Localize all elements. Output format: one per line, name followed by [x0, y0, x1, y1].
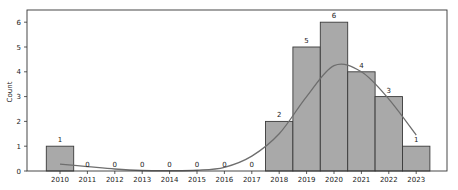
bar-value-label: 4	[359, 62, 364, 70]
bar-value-label: 0	[85, 161, 89, 169]
x-tick-label: 2018	[270, 176, 288, 184]
bar-value-label: 3	[387, 87, 391, 95]
y-axis-title: Count	[6, 81, 14, 102]
y-tick-label: 2	[17, 118, 21, 126]
y-tick-label: 3	[17, 93, 21, 101]
y-tick-label: 1	[17, 143, 21, 151]
bar-value-label: 0	[222, 161, 226, 169]
bar-value-label: 5	[304, 37, 308, 45]
bar	[348, 72, 375, 171]
y-axis-ticks: 0123456	[17, 19, 27, 176]
x-tick-label: 2010	[51, 176, 69, 184]
bar-value-label: 0	[250, 161, 254, 169]
x-tick-label: 2013	[133, 176, 151, 184]
x-tick-label: 2019	[298, 176, 316, 184]
bar	[375, 97, 402, 171]
x-tick-label: 2011	[78, 176, 96, 184]
bar-value-label: 0	[113, 161, 117, 169]
x-tick-label: 2017	[243, 176, 261, 184]
bars	[46, 22, 430, 171]
y-tick-label: 0	[17, 168, 21, 176]
x-tick-label: 2023	[407, 176, 425, 184]
y-tick-label: 5	[17, 44, 21, 52]
bar-value-label: 0	[167, 161, 171, 169]
y-tick-label: 4	[17, 68, 22, 76]
x-tick-label: 2015	[188, 176, 206, 184]
bar-value-label: 0	[140, 161, 144, 169]
x-tick-label: 2021	[352, 176, 370, 184]
bar-value-label: 0	[195, 161, 199, 169]
x-tick-label: 2016	[215, 176, 233, 184]
x-axis-ticks: 2010201120122013201420152016201720182019…	[51, 171, 425, 184]
bar-value-label: 2	[277, 111, 281, 119]
bar	[403, 146, 430, 171]
bar-value-label: 1	[58, 136, 62, 144]
histogram-chart: 10000000256431 0123456 20102011201220132…	[0, 0, 458, 190]
bar-value-label: 6	[332, 12, 337, 20]
x-tick-label: 2014	[161, 176, 179, 184]
bar	[46, 146, 73, 171]
y-tick-label: 6	[17, 19, 22, 27]
x-tick-label: 2020	[325, 176, 343, 184]
x-tick-label: 2012	[106, 176, 124, 184]
bar-value-label: 1	[414, 136, 418, 144]
x-tick-label: 2022	[380, 176, 398, 184]
bar	[266, 121, 293, 171]
bar	[320, 22, 347, 171]
